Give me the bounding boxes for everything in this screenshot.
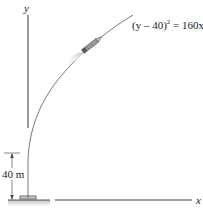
trajectory-curve [28, 15, 133, 198]
curve-equation: (y – 40)2 = 160x [132, 18, 203, 31]
diagram-graphics [0, 0, 203, 217]
equation-suffix: = 160x [170, 19, 203, 31]
rocket-trajectory-diagram: y x (y – 40)2 = 160x 40 m [0, 0, 203, 217]
height-dimension-label: 40 m [2, 168, 24, 180]
y-axis-label: y [24, 2, 29, 14]
equation-prefix: (y – 40) [132, 19, 167, 31]
rocket-icon [68, 35, 104, 64]
x-axis-label: x [196, 194, 201, 206]
ground [8, 200, 50, 206]
